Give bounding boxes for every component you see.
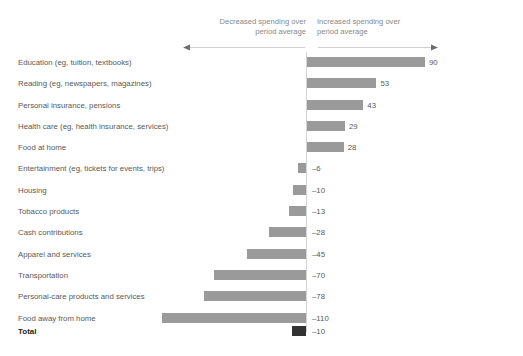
value-bar <box>269 227 306 237</box>
value-bar <box>307 121 345 131</box>
value-bar <box>298 163 306 173</box>
chart-row: Personal-care products and services–78 <box>0 289 523 310</box>
value-bar <box>307 57 425 67</box>
category-label: Education (eg, tuition, textbooks) <box>18 58 132 68</box>
arrow-left-icon <box>183 43 305 52</box>
value-label: –110 <box>312 314 329 324</box>
total-bar <box>292 326 306 336</box>
increased-spending-caption: Increased spending over period average <box>317 17 447 36</box>
value-label: –13 <box>312 207 325 217</box>
value-bar <box>307 78 376 88</box>
chart-row: Cash contributions–28 <box>0 225 523 246</box>
value-label: 90 <box>429 58 438 68</box>
chart-row: Apparel and services–45 <box>0 247 523 268</box>
category-label: Transportation <box>18 271 68 281</box>
value-label: –70 <box>312 271 325 281</box>
value-label: 43 <box>367 101 376 111</box>
chart-row: Health care (eg, health insurance, servi… <box>0 119 523 140</box>
value-label: 29 <box>349 122 358 132</box>
value-bar <box>204 291 306 301</box>
category-label: Housing <box>18 186 47 196</box>
chart-row: Housing–10 <box>0 183 523 204</box>
value-label: 28 <box>348 143 357 153</box>
chart-row: Entertainment (eg, tickets for events, t… <box>0 161 523 182</box>
value-bar <box>293 185 306 195</box>
spending-change-chart: Decreased spending over period average I… <box>0 0 523 356</box>
arrow-right-icon <box>318 43 438 52</box>
value-label: 53 <box>380 79 389 89</box>
total-row: Total –10 <box>0 324 523 342</box>
category-label: Tobacco products <box>18 207 79 217</box>
category-label: Food away from home <box>18 314 96 324</box>
total-value: –10 <box>312 327 325 337</box>
value-label: –28 <box>312 228 325 238</box>
chart-row: Personal insurance, pensions43 <box>0 98 523 119</box>
chart-row: Transportation–70 <box>0 268 523 289</box>
value-label: –45 <box>312 250 325 260</box>
category-label: Cash contributions <box>18 228 83 238</box>
total-label: Total <box>18 327 37 337</box>
value-bar <box>214 270 306 280</box>
category-label: Apparel and services <box>18 250 91 260</box>
category-label: Health care (eg, health insurance, servi… <box>18 122 168 132</box>
category-label: Personal-care products and services <box>18 292 145 302</box>
value-bar <box>307 142 344 152</box>
category-label: Food at home <box>18 143 66 153</box>
category-label: Personal insurance, pensions <box>18 101 120 111</box>
value-label: –78 <box>312 292 325 302</box>
value-label: –10 <box>312 186 325 196</box>
value-bar <box>162 313 306 323</box>
category-label: Entertainment (eg, tickets for events, t… <box>18 164 164 174</box>
chart-row: Tobacco products–13 <box>0 204 523 225</box>
category-label: Reading (eg, newspapers, magazines) <box>18 79 152 89</box>
value-bar <box>247 249 306 259</box>
chart-row: Reading (eg, newspapers, magazines)53 <box>0 76 523 97</box>
decreased-spending-caption: Decreased spending over period average <box>186 17 306 36</box>
value-bar <box>289 206 306 216</box>
chart-row: Education (eg, tuition, textbooks)90 <box>0 55 523 76</box>
value-label: –6 <box>312 164 321 174</box>
chart-rows: Education (eg, tuition, textbooks)90Read… <box>0 55 523 332</box>
chart-row: Food at home28 <box>0 140 523 161</box>
value-bar <box>307 100 363 110</box>
